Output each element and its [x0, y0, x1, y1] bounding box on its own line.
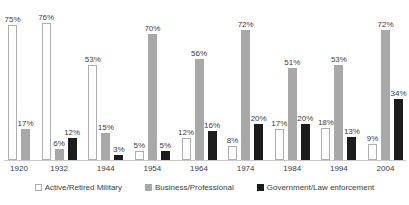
legend-label: Active/Retired Military	[45, 183, 122, 192]
bar-military	[321, 128, 330, 160]
bar-column: 70%	[146, 24, 159, 160]
value-label: 20%	[251, 114, 267, 123]
bar-business	[288, 68, 297, 160]
bar-military	[135, 151, 144, 160]
category-label: 1974	[237, 164, 255, 173]
bar-military	[275, 129, 284, 160]
bar-column: 76%	[40, 13, 53, 160]
category-label: 1964	[190, 164, 208, 173]
value-label: 51%	[284, 58, 300, 67]
bar-column: 53%	[86, 55, 99, 160]
bar-column: 17%	[19, 119, 32, 160]
bar-group-bars: 17%51%20%	[273, 0, 312, 160]
value-label: 17%	[18, 119, 34, 128]
bar-column: 20%	[299, 114, 312, 160]
value-label: 12%	[64, 128, 80, 137]
bar-group-bars: 8%72%20%	[226, 0, 265, 160]
bar-column: 53%	[332, 55, 345, 160]
category-label: 1994	[330, 164, 348, 173]
bar-column: 56%	[193, 49, 206, 160]
bar-military	[182, 138, 191, 160]
category-label: 1954	[143, 164, 161, 173]
bar-government	[301, 124, 310, 160]
bar-group: 9%72%34%2004	[366, 0, 405, 173]
bar-column: 13%	[345, 127, 358, 160]
bar-group: 5%70%5%1954	[133, 0, 172, 173]
value-label: 70%	[144, 24, 160, 33]
bar-column: 72%	[239, 20, 252, 160]
value-label: 72%	[378, 20, 394, 29]
value-label: 56%	[191, 49, 207, 58]
value-label: 9%	[367, 134, 379, 143]
category-label: 1984	[283, 164, 301, 173]
value-label: 34%	[391, 89, 407, 98]
legend-swatch-icon	[35, 184, 42, 191]
value-label: 6%	[53, 139, 65, 148]
bar-military	[228, 146, 237, 160]
category-label: 2004	[377, 164, 395, 173]
bar-government	[161, 151, 170, 160]
value-label: 53%	[331, 55, 347, 64]
plot-area: 75%17%192076%6%12%193253%15%3%19445%70%5…	[6, 0, 405, 160]
bar-group: 8%72%20%1974	[226, 0, 265, 173]
legend-swatch-icon	[257, 184, 264, 191]
bar-column: 6%	[53, 139, 66, 160]
bar-business	[101, 133, 110, 160]
bar-column: 8%	[226, 136, 239, 160]
bar-business	[381, 30, 390, 160]
value-label: 5%	[134, 141, 146, 150]
bar-column: 17%	[273, 119, 286, 160]
value-label: 75%	[5, 15, 21, 24]
bar-government	[208, 131, 217, 160]
category-label: 1920	[10, 164, 28, 173]
bar-military	[368, 144, 377, 160]
bar-column: 18%	[319, 118, 332, 160]
bar-column: 3%	[112, 145, 125, 160]
bar-column: 9%	[366, 134, 379, 160]
bar-group: 18%53%13%1994	[319, 0, 358, 173]
bar-column: 20%	[252, 114, 265, 160]
value-label: 3%	[113, 145, 125, 154]
bar-group: 17%51%20%1984	[273, 0, 312, 173]
bar-column: 34%	[392, 89, 405, 160]
bar-group: 12%56%16%1964	[180, 0, 219, 173]
value-label: 20%	[297, 114, 313, 123]
value-label: 5%	[160, 141, 172, 150]
bar-business	[21, 129, 30, 160]
bar-column: 5%	[159, 141, 172, 160]
bar-business	[148, 34, 157, 160]
value-label: 16%	[204, 121, 220, 130]
legend-item: Active/Retired Military	[35, 183, 122, 192]
value-label: 8%	[227, 136, 239, 145]
bar-group-bars: 9%72%34%	[366, 0, 405, 160]
x-axis-line	[4, 160, 406, 161]
bar-column: 5%	[133, 141, 146, 160]
bar-group-bars: 75%17%	[6, 0, 32, 160]
value-label: 72%	[238, 20, 254, 29]
bar-group-bars: 53%15%3%	[86, 0, 125, 160]
value-label: 13%	[344, 127, 360, 136]
bar-column: 51%	[286, 58, 299, 160]
bar-group: 76%6%12%1932	[40, 0, 79, 173]
bar-column: 12%	[66, 128, 79, 160]
legend-label: Business/Professional	[155, 183, 234, 192]
bar-column: 12%	[180, 128, 193, 160]
bar-business	[55, 149, 64, 160]
bar-military	[88, 65, 97, 160]
bar-business	[241, 30, 250, 160]
bar-column: 16%	[206, 121, 219, 160]
bar-group: 75%17%1920	[6, 0, 32, 173]
value-label: 53%	[85, 55, 101, 64]
value-label: 76%	[38, 13, 54, 22]
bar-business	[195, 59, 204, 160]
bar-group-bars: 5%70%5%	[133, 0, 172, 160]
legend-item: Government/Law enforcement	[257, 183, 375, 192]
bar-business	[334, 65, 343, 160]
bar-group-bars: 12%56%16%	[180, 0, 219, 160]
category-label: 1932	[50, 164, 68, 173]
bar-military	[8, 25, 17, 160]
bar-column: 75%	[6, 15, 19, 160]
category-label: 1944	[97, 164, 115, 173]
bar-group: 53%15%3%1944	[86, 0, 125, 173]
legend-item: Business/Professional	[145, 183, 234, 192]
